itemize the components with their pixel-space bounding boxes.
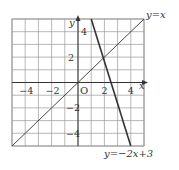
y-tick-label: −4 xyxy=(66,128,80,139)
x-tick-label: 2 xyxy=(101,85,107,96)
x-axis-label: x xyxy=(139,80,145,91)
y-axis-label: y xyxy=(68,17,75,28)
y-axis-arrow-icon xyxy=(76,15,81,21)
x-tick-label: −2 xyxy=(46,85,60,96)
x-tick-label: −4 xyxy=(19,85,33,96)
y-tick-label: 2 xyxy=(68,52,74,63)
x-tick-label: 4 xyxy=(128,85,134,96)
series-label-y-equals-neg2x-plus-3: y=−2x+3 xyxy=(103,148,153,159)
y-tick-label: 4 xyxy=(81,26,87,37)
y-tick-label: −2 xyxy=(66,102,80,113)
series-label-y-equals-x: y=x xyxy=(145,9,166,20)
coordinate-plane: x y O y=x y=−2x+3 −4−22442−2−4 xyxy=(0,0,179,170)
origin-label: O xyxy=(80,85,88,96)
